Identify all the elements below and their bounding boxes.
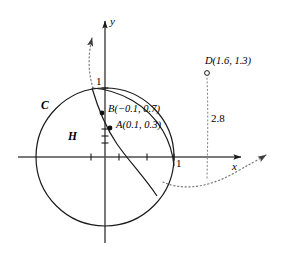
math-diagram-figure: x y 1 1 C H B(−0.1, 0.7) A(0.1, 0.3) D(1…	[0, 0, 290, 255]
y-axis-label: y	[110, 16, 115, 27]
x-unit-tick-label: 1	[176, 158, 182, 169]
distance-leader-line	[207, 78, 208, 178]
region-h-label: H	[68, 131, 77, 143]
x-axis-label: x	[232, 161, 237, 172]
point-d-label: D(1.6, 1.3)	[205, 56, 251, 67]
point-a-marker	[108, 126, 113, 131]
dotted-curve-upper-left	[89, 38, 93, 88]
distance-label: 2.8	[211, 113, 225, 124]
point-b-label: B(−0.1, 0.7)	[108, 104, 160, 115]
point-a-label: A(0.1, 0.3)	[116, 120, 161, 131]
circle-c-label: C	[41, 100, 49, 112]
point-b-marker	[100, 111, 105, 116]
point-d-marker	[205, 71, 210, 76]
y-unit-tick-label: 1	[96, 76, 102, 87]
